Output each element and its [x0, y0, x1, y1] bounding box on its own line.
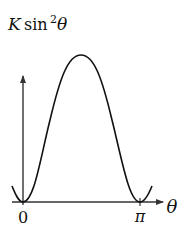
- y-axis-label: K sin 2 θ: [7, 7, 67, 34]
- tick-label-zero: 0: [18, 208, 28, 227]
- tick-label-pi: π: [134, 207, 146, 226]
- sin-squared-curve: [12, 55, 152, 202]
- plot: K sin 2 θ 0 π θ: [0, 0, 182, 233]
- x-axis-label: θ: [167, 196, 178, 217]
